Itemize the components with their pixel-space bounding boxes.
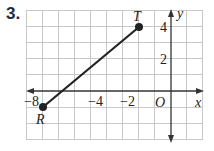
point-R	[39, 103, 47, 111]
y-axis-label: y	[175, 6, 184, 21]
point-T-label: T	[133, 9, 142, 24]
point-T	[135, 23, 143, 31]
y-axis	[168, 9, 174, 143]
coordinate-graph: T R y x O 4 2 −8 −4 −2	[0, 0, 214, 151]
y-tick-2: 2	[160, 52, 167, 67]
origin-label: O	[155, 95, 165, 110]
x-tick-neg2: −2	[120, 94, 135, 109]
point-R-label: R	[35, 112, 45, 127]
y-tick-4: 4	[160, 20, 167, 35]
x-axis-label: x	[194, 95, 202, 110]
x-axis	[26, 88, 204, 94]
grid	[26, 10, 203, 140]
x-tick-neg4: −4	[88, 94, 103, 109]
x-tick-neg8: −8	[24, 94, 39, 109]
